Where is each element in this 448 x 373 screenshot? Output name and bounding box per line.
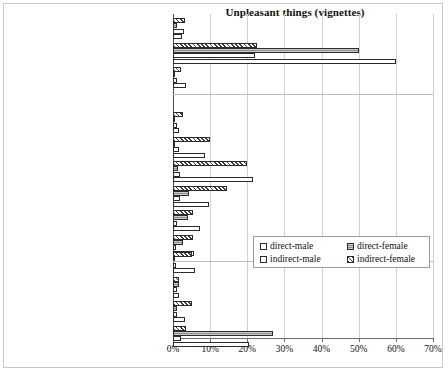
x-tick bbox=[396, 338, 397, 342]
bar bbox=[173, 317, 185, 322]
legend-item-indirect-male: indirect-male bbox=[260, 254, 321, 264]
bar bbox=[173, 277, 179, 282]
bar bbox=[173, 166, 178, 171]
bar bbox=[173, 312, 177, 317]
bar bbox=[173, 147, 179, 152]
chart-legend: direct-male indirect-male direct-female … bbox=[253, 236, 430, 268]
legend-label-indirect-female: indirect-female bbox=[357, 254, 415, 264]
bar bbox=[173, 83, 186, 88]
bar bbox=[173, 226, 200, 231]
grid-line bbox=[396, 14, 397, 338]
legend-swatch-indirect-male bbox=[260, 256, 267, 263]
bar bbox=[173, 268, 195, 273]
bar bbox=[173, 177, 253, 182]
x-tick-label: 30% bbox=[264, 344, 304, 354]
legend-swatch-direct-male bbox=[260, 243, 267, 250]
legend-item-direct-male: direct-male bbox=[260, 241, 313, 251]
x-axis-line bbox=[173, 338, 433, 339]
bar bbox=[173, 43, 257, 48]
x-tick bbox=[284, 338, 285, 342]
bar bbox=[173, 186, 227, 191]
legend-swatch-indirect-female bbox=[347, 256, 354, 263]
bar bbox=[173, 293, 179, 298]
bar bbox=[173, 53, 255, 58]
bar bbox=[173, 191, 189, 196]
bar bbox=[173, 128, 179, 133]
bar bbox=[173, 72, 175, 77]
bar bbox=[173, 142, 175, 147]
bar bbox=[173, 263, 176, 268]
x-tick-label: 40% bbox=[302, 344, 342, 354]
x-tick bbox=[359, 338, 360, 342]
grid-line bbox=[433, 14, 434, 338]
x-tick-label: 60% bbox=[376, 344, 416, 354]
legend-swatch-direct-female bbox=[347, 243, 354, 250]
bar bbox=[173, 235, 193, 240]
bar bbox=[173, 23, 177, 28]
bar bbox=[173, 336, 181, 341]
bar bbox=[173, 245, 176, 250]
bar bbox=[173, 48, 359, 53]
bar bbox=[173, 326, 186, 331]
bar bbox=[173, 196, 180, 201]
legend-item-direct-female: direct-female bbox=[347, 241, 408, 251]
group-separator bbox=[173, 94, 433, 95]
bar bbox=[173, 215, 188, 220]
x-tick-label: 70% bbox=[413, 344, 448, 354]
bar bbox=[173, 252, 192, 257]
bar bbox=[173, 287, 177, 292]
bar bbox=[173, 78, 177, 83]
bar bbox=[173, 34, 182, 39]
bar bbox=[173, 202, 209, 207]
legend-label-indirect-male: indirect-male bbox=[270, 254, 321, 264]
bar bbox=[173, 221, 177, 226]
bar bbox=[173, 161, 247, 166]
bar bbox=[173, 240, 183, 245]
bar-chart: Unpleasant things (vignettes) 0%10%20%30… bbox=[0, 0, 448, 373]
legend-label-direct-male: direct-male bbox=[270, 241, 313, 251]
x-tick bbox=[433, 338, 434, 342]
x-tick bbox=[322, 338, 323, 342]
bar bbox=[173, 331, 273, 336]
x-tick-label: 50% bbox=[339, 344, 379, 354]
legend-label-direct-female: direct-female bbox=[357, 241, 408, 251]
bar bbox=[173, 153, 205, 158]
legend-item-indirect-female: indirect-female bbox=[347, 254, 415, 264]
bar bbox=[173, 123, 177, 128]
bar bbox=[173, 210, 193, 215]
bar bbox=[173, 112, 183, 117]
bar bbox=[173, 172, 180, 177]
bar bbox=[173, 117, 175, 122]
bar bbox=[173, 301, 192, 306]
bar bbox=[173, 342, 249, 347]
bar bbox=[173, 18, 185, 23]
bar bbox=[173, 306, 177, 311]
bar bbox=[173, 282, 179, 287]
bar bbox=[173, 59, 396, 64]
bar bbox=[173, 29, 184, 34]
bar bbox=[173, 137, 210, 142]
bar bbox=[173, 67, 181, 72]
